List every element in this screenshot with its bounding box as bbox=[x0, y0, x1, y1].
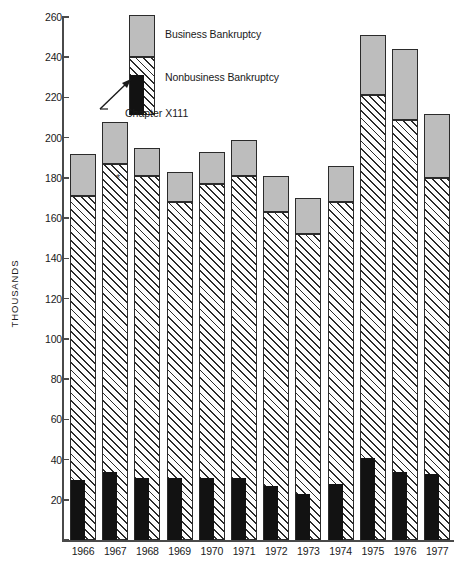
y-axis-tick bbox=[62, 539, 69, 541]
bar-segment-chapter bbox=[135, 478, 149, 540]
bar-segment-business bbox=[231, 140, 257, 176]
y-axis-tick-label: 240 bbox=[28, 52, 62, 62]
x-axis-line bbox=[62, 540, 454, 542]
x-axis-tick-label: 1977 bbox=[415, 545, 459, 557]
y-axis-tick-label: 100 bbox=[28, 334, 62, 344]
bar-segment-chapter bbox=[296, 494, 310, 540]
y-axis-tick-label: 200 bbox=[28, 133, 62, 143]
y-axis-tick-label: 180 bbox=[28, 173, 62, 183]
y-axis-tick bbox=[62, 378, 69, 380]
y-axis-tick bbox=[62, 419, 69, 421]
bar-segment-chapter bbox=[103, 472, 117, 540]
y-axis-tick-label-wrap: 240 bbox=[0, 52, 62, 62]
y-axis-tick-label: 20 bbox=[28, 495, 62, 505]
bar-group bbox=[231, 140, 257, 540]
bar-segment-business bbox=[328, 166, 354, 202]
y-axis-tick-label-wrap: 180 bbox=[0, 173, 62, 183]
legend-label-nonbusiness: Nonbusiness Bankruptcy bbox=[165, 71, 279, 83]
y-axis-tick-label-wrap: 200 bbox=[0, 133, 62, 143]
legend-label-chapter: Chapter X111 bbox=[125, 107, 188, 119]
y-axis-tick-label-wrap: 260 bbox=[0, 12, 62, 22]
y-axis-tick-label: 140 bbox=[28, 253, 62, 263]
bar-segment-business bbox=[134, 148, 160, 176]
y-axis-tick-label: 60 bbox=[28, 414, 62, 424]
y-axis-line bbox=[62, 17, 64, 541]
y-axis-tick bbox=[62, 338, 69, 340]
y-axis-tick-label-wrap: 40 bbox=[0, 455, 62, 465]
y-axis-tick bbox=[62, 177, 69, 179]
legend-label-business: Business Bankruptcy bbox=[165, 28, 261, 40]
bankruptcy-bar-chart: THOUSANDS 204060801001201401601802002202… bbox=[0, 0, 459, 567]
bar-segment-chapter bbox=[232, 478, 246, 540]
bar-segment-business bbox=[263, 176, 289, 212]
y-axis-tick-label-wrap: 20 bbox=[0, 495, 62, 505]
y-axis-tick-label-wrap: 140 bbox=[0, 253, 62, 263]
bar-group bbox=[102, 122, 128, 540]
bar-segment-business bbox=[295, 198, 321, 234]
bar-group bbox=[424, 114, 450, 540]
bar-segment-business bbox=[424, 114, 450, 178]
y-axis-tick-label-wrap: 220 bbox=[0, 92, 62, 102]
bar-segment-chapter bbox=[200, 478, 214, 540]
legend-swatch-business bbox=[129, 15, 155, 57]
bar-segment-chapter bbox=[329, 484, 343, 540]
y-axis-tick bbox=[62, 258, 69, 260]
y-axis-tick bbox=[62, 459, 69, 461]
y-axis-tick bbox=[62, 97, 69, 99]
bar-segment-chapter bbox=[361, 458, 375, 540]
bar-segment-business bbox=[392, 49, 418, 119]
bar-group bbox=[199, 152, 225, 540]
bar-group bbox=[392, 49, 418, 540]
bar-group bbox=[134, 148, 160, 540]
y-axis-tick-label: 120 bbox=[28, 294, 62, 304]
bar-group bbox=[167, 172, 193, 540]
y-axis-tick-label: 40 bbox=[28, 455, 62, 465]
bar-segment-chapter bbox=[393, 472, 407, 540]
bar-segment-business bbox=[70, 154, 96, 196]
bar-group bbox=[295, 198, 321, 540]
bar-segment-chapter bbox=[264, 486, 278, 540]
y-axis-tick-label-wrap: 80 bbox=[0, 374, 62, 384]
y-axis-tick bbox=[62, 298, 69, 300]
bar-segment-chapter bbox=[168, 478, 182, 540]
y-axis-tick-label-wrap: 60 bbox=[0, 414, 62, 424]
bar-segment-business bbox=[360, 35, 386, 95]
bar-segment-chapter bbox=[425, 474, 439, 540]
bar-segment-business bbox=[102, 122, 128, 164]
y-axis-tick bbox=[62, 56, 69, 58]
bar-segment-business bbox=[199, 152, 225, 184]
y-axis-tick bbox=[62, 137, 69, 139]
y-axis-tick bbox=[62, 499, 69, 501]
y-axis-tick-label: 80 bbox=[28, 374, 62, 384]
bar-group bbox=[328, 166, 354, 540]
y-axis-tick-label-wrap: 160 bbox=[0, 213, 62, 223]
bar-segment-business bbox=[167, 172, 193, 202]
bar-group bbox=[360, 35, 386, 540]
y-axis-tick bbox=[62, 16, 69, 18]
y-axis-tick-label: 160 bbox=[28, 213, 62, 223]
bar-segment-chapter bbox=[71, 480, 85, 540]
y-axis-tick-label: 220 bbox=[28, 92, 62, 102]
y-axis-tick bbox=[62, 217, 69, 219]
bar-group bbox=[263, 176, 289, 540]
y-axis-tick-label-wrap: 100 bbox=[0, 334, 62, 344]
y-axis-tick-label-wrap: 120 bbox=[0, 294, 62, 304]
bar-group bbox=[70, 154, 96, 540]
asterisk-annotation: * bbox=[116, 172, 120, 184]
y-axis-tick-label: 260 bbox=[28, 12, 62, 22]
